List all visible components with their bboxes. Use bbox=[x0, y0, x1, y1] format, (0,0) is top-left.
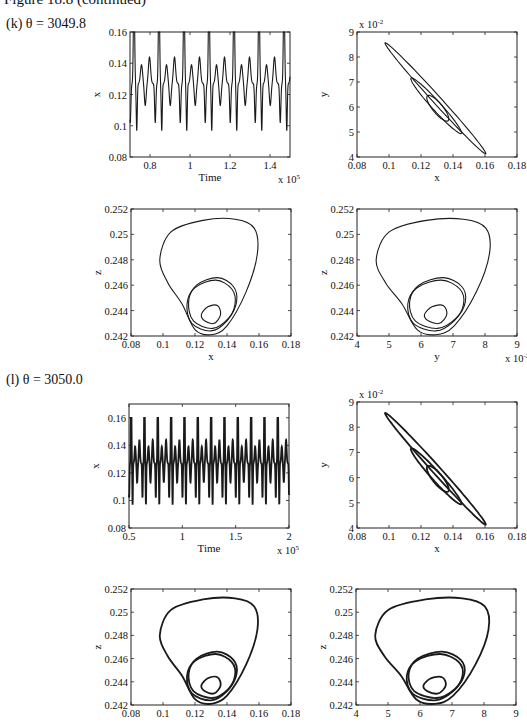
subplot-k-z-vs-x: 0.080.10.120.140.160.180.2420.2440.2460.… bbox=[91, 204, 300, 362]
y-tick-label: 0.252 bbox=[330, 204, 354, 215]
y-tick-label: 0.1 bbox=[114, 121, 127, 132]
x-tick-label: 1.2 bbox=[223, 160, 236, 171]
time-series-line bbox=[129, 418, 289, 505]
time-series-line bbox=[130, 32, 290, 130]
y-tick-label: 0.248 bbox=[330, 255, 354, 266]
y-tick-label: 0.246 bbox=[104, 280, 128, 291]
x-tick-label: 7 bbox=[450, 339, 455, 350]
y-tick-label: 0.248 bbox=[104, 255, 128, 266]
y-tick-label: 0.25 bbox=[110, 607, 128, 618]
x-axis-label: Time bbox=[198, 542, 221, 554]
subplot-l-y-vs-x: 0.080.10.120.140.160.18456789xyx 10-2 bbox=[317, 388, 526, 554]
y-tick-label: 0.08 bbox=[108, 523, 126, 534]
y-tick-label: 0.246 bbox=[329, 654, 353, 665]
y-tick-label: 7 bbox=[349, 447, 354, 458]
x-tick-label: 0.12 bbox=[186, 708, 204, 719]
subplot-k-z-vs-y: 4567890.2420.2440.2460.2480.250.252yzx 1… bbox=[317, 204, 527, 364]
x-tick-label: 5 bbox=[385, 708, 390, 719]
x-tick-label: 0.16 bbox=[476, 160, 494, 171]
x-axis-multiplier: x 10-2 bbox=[505, 352, 527, 364]
y-tick-label: 0.244 bbox=[104, 306, 128, 317]
y-tick-label: 4 bbox=[349, 152, 355, 163]
y-tick-label: 0.08 bbox=[109, 152, 127, 163]
x-tick-label: 0.18 bbox=[508, 160, 526, 171]
y-axis-label: x bbox=[89, 463, 101, 469]
x-tick-label: 8 bbox=[481, 708, 486, 719]
y-tick-label: 5 bbox=[349, 127, 354, 138]
y-tick-label: 0.14 bbox=[109, 58, 128, 69]
y-axis-multiplier: x 10-2 bbox=[359, 388, 384, 400]
x-tick-label: 6 bbox=[418, 339, 423, 350]
y-tick-label: 0.14 bbox=[108, 440, 127, 451]
phase-loop-inner bbox=[201, 677, 220, 694]
x-tick-label: 0.1 bbox=[156, 708, 169, 719]
x-tick-label: 0.16 bbox=[250, 708, 268, 719]
phase-loop-outer bbox=[160, 218, 258, 334]
axes-frame bbox=[131, 209, 291, 336]
x-axis-label: x bbox=[208, 350, 214, 362]
y-tick-label: 0.244 bbox=[104, 677, 128, 688]
y-tick-label: 7 bbox=[349, 77, 354, 88]
y-tick-label: 9 bbox=[349, 397, 354, 408]
y-tick-label: 0.244 bbox=[330, 306, 354, 317]
y-tick-label: 0.246 bbox=[330, 280, 354, 291]
y-tick-label: 0.242 bbox=[104, 700, 128, 711]
y-axis-label: x bbox=[90, 91, 102, 97]
x-axis-multiplier: x 105 bbox=[277, 544, 299, 556]
x-tick-label: 4 bbox=[353, 708, 359, 719]
x-tick-label: 7 bbox=[449, 708, 454, 719]
y-tick-label: 6 bbox=[349, 473, 354, 484]
x-tick-label: 0.14 bbox=[444, 531, 463, 542]
x-tick-label: 2 bbox=[286, 531, 291, 542]
x-tick-label: 6 bbox=[417, 708, 422, 719]
y-tick-label: 0.25 bbox=[336, 229, 354, 240]
x-axis-label: y bbox=[434, 350, 440, 362]
y-tick-label: 0.248 bbox=[104, 630, 128, 641]
x-tick-label: 0.1 bbox=[156, 339, 169, 350]
phase-loop-inner bbox=[423, 677, 446, 694]
y-axis-label: y bbox=[317, 462, 329, 468]
y-tick-label: 8 bbox=[349, 422, 354, 433]
x-tick-label: 0.1 bbox=[382, 531, 395, 542]
x-tick-label: 0.16 bbox=[476, 531, 494, 542]
y-tick-label: 0.244 bbox=[329, 677, 353, 688]
x-tick-label: 0.14 bbox=[444, 160, 463, 171]
axes-frame bbox=[357, 209, 517, 336]
subplot-k-x-vs-time: 0.811.21.40.080.10.120.140.16Timexx 105 bbox=[90, 27, 300, 185]
x-tick-label: 4 bbox=[354, 339, 360, 350]
x-tick-label: 0.18 bbox=[508, 531, 526, 542]
phase-loop-middle bbox=[188, 278, 236, 329]
x-tick-label: 0.12 bbox=[412, 160, 430, 171]
y-tick-label: 4 bbox=[349, 523, 355, 534]
phase-loop-inner bbox=[424, 305, 447, 324]
phase-loop-middle bbox=[188, 652, 236, 698]
x-tick-label: 1 bbox=[187, 160, 192, 171]
y-tick-label: 0.246 bbox=[104, 654, 128, 665]
x-axis-multiplier: x 105 bbox=[278, 173, 300, 185]
y-tick-label: 0.25 bbox=[110, 229, 128, 240]
x-tick-label: 9 bbox=[513, 708, 518, 719]
y-axis-label: z bbox=[316, 644, 328, 649]
x-tick-label: 0.12 bbox=[412, 531, 430, 542]
y-tick-label: 0.16 bbox=[108, 413, 126, 424]
y-tick-label: 0.25 bbox=[335, 607, 353, 618]
y-tick-label: 0.242 bbox=[330, 331, 354, 342]
y-tick-label: 0.252 bbox=[104, 584, 128, 595]
phase-loop-outer bbox=[375, 598, 489, 704]
phase-loop-middle bbox=[408, 652, 464, 698]
axes-frame bbox=[356, 589, 516, 705]
y-tick-label: 0.248 bbox=[329, 630, 353, 641]
x-axis-label: x bbox=[434, 542, 440, 554]
x-tick-label: 5 bbox=[386, 339, 391, 350]
y-tick-label: 0.242 bbox=[104, 331, 128, 342]
x-tick-label: 1 bbox=[180, 531, 185, 542]
subplot-l-z-vs-y: 4567890.2420.2440.2460.2480.250.252yz bbox=[316, 584, 519, 722]
subplot-l-z-vs-x: 0.080.10.120.140.160.180.2420.2440.2460.… bbox=[91, 584, 300, 722]
y-tick-label: 6 bbox=[349, 102, 354, 113]
y-tick-label: 0.252 bbox=[329, 584, 353, 595]
y-axis-label: z bbox=[91, 644, 103, 649]
figure-canvas: 0.811.21.40.080.10.120.140.16Timexx 1050… bbox=[0, 0, 527, 722]
phase-loop bbox=[427, 95, 449, 121]
y-axis-label: z bbox=[91, 270, 103, 275]
x-axis-label: Time bbox=[199, 171, 222, 183]
